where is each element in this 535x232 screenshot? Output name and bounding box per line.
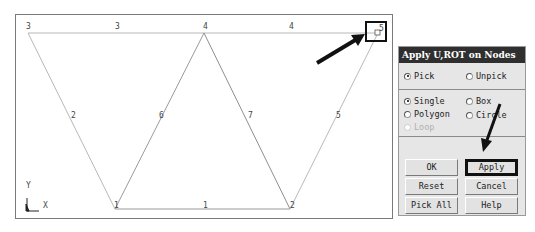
element-label-1: 1 [203,202,208,210]
graphics-window[interactable]: 3 3 4 4 5 2 6 7 5 1 1 2 Y X [15,14,393,219]
radio-unselected-icon [466,112,473,119]
radio-unselected-icon [466,98,473,105]
axis-x-label: X [43,202,48,210]
dialog-title: Apply U,ROT on Nodes [399,47,525,63]
radio-loop: Loop [404,122,434,132]
radio-selected-icon [404,73,411,80]
radio-unselected-icon [404,111,411,118]
pick-all-button[interactable]: Pick All [405,197,458,214]
radio-pick[interactable]: Pick [404,71,434,81]
element-label-5: 5 [336,112,341,120]
node-label-3: 3 [26,23,31,31]
node-label-1: 1 [114,202,119,210]
radio-circle[interactable]: Circle [466,110,507,120]
radio-unselected-icon [466,73,473,80]
element-label-7: 7 [248,112,253,120]
apply-u-rot-dialog: Apply U,ROT on Nodes Pick Unpick Single … [398,46,526,216]
ok-button[interactable]: OK [405,159,458,176]
node-label-4: 4 [203,23,208,31]
element-label-4: 4 [289,23,294,31]
help-button[interactable]: Help [465,197,518,214]
node-label-5: 5 [379,25,384,33]
radio-unpick[interactable]: Unpick [466,71,507,81]
axis-y-label: Y [26,182,31,190]
pick-shape-section: Single Box Polygon Circle Loop [399,90,525,137]
cancel-button[interactable]: Cancel [465,178,518,195]
apply-button[interactable]: Apply [465,159,518,176]
radio-single[interactable]: Single [404,96,445,106]
radio-box[interactable]: Box [466,96,491,106]
radio-selected-icon [404,98,411,105]
radio-polygon[interactable]: Polygon [404,109,450,119]
reset-button[interactable]: Reset [405,178,458,195]
element-label-3: 3 [115,23,120,31]
annotation-arrow [317,34,392,156]
triad [26,198,39,211]
element-label-6: 6 [159,112,164,120]
radio-disabled-icon [404,124,411,131]
node-label-2: 2 [290,202,295,210]
element-label-2: 2 [71,112,76,120]
pick-mode-section: Pick Unpick [399,63,525,90]
